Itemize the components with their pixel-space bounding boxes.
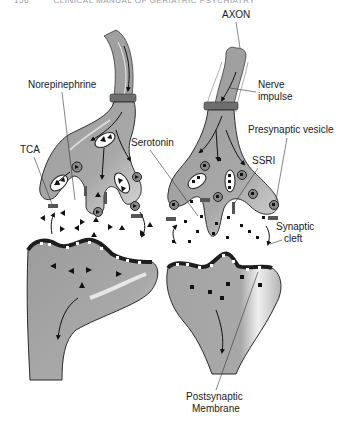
label-norepinephrine: Norepinephrine xyxy=(28,79,97,90)
reuptake-arrow-left xyxy=(51,214,54,234)
label-synaptic-cleft-1: Synaptic xyxy=(276,221,314,232)
left-presynaptic-neuron xyxy=(40,30,143,218)
label-ssri: SSRI xyxy=(252,155,275,166)
reuptake-arrow-right-2 xyxy=(266,226,269,244)
label-tca: TCA xyxy=(20,144,40,155)
label-serotonin: Serotonin xyxy=(131,137,174,148)
label-axon: AXON xyxy=(222,9,250,20)
label-synaptic-cleft-2: cleft xyxy=(284,233,303,244)
labels: AXON Nerve impulse Norepinephrine TCA Se… xyxy=(20,9,334,414)
right-presynaptic-neuron xyxy=(166,47,279,236)
right-postsynaptic-neuron xyxy=(167,254,281,374)
label-presynaptic-vesicle: Presynaptic vesicle xyxy=(248,124,334,135)
label-nerve-impulse-2: impulse xyxy=(258,91,293,102)
left-postsynaptic-neuron xyxy=(27,240,158,380)
label-postsynaptic-2: Membrane xyxy=(192,403,240,414)
label-nerve-impulse-1: Nerve xyxy=(258,79,285,90)
synapse-diagram: AXON Nerve impulse Norepinephrine TCA Se… xyxy=(0,0,350,429)
label-postsynaptic-1: Postsynaptic xyxy=(186,391,243,402)
